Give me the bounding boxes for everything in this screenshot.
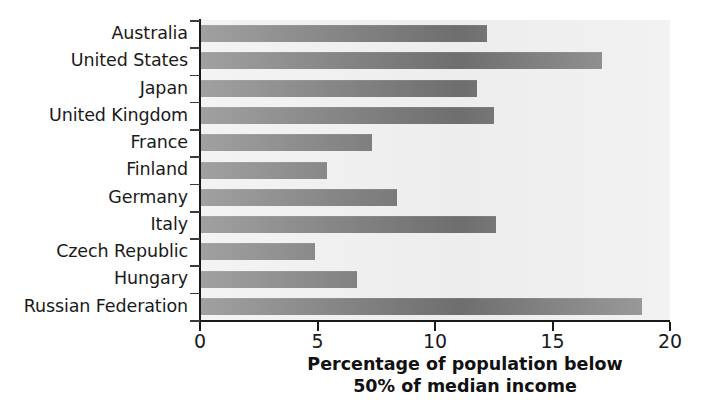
x-tick-label: 5	[311, 330, 323, 352]
x-tick-label: 15	[540, 330, 564, 352]
category-label: Finland	[126, 156, 188, 183]
bar	[200, 162, 327, 179]
category-tick	[190, 238, 200, 240]
x-axis-title-line2: 50% of median income	[232, 375, 698, 397]
bar	[200, 216, 496, 233]
category-tick	[190, 47, 200, 49]
y-axis-line	[199, 19, 201, 321]
bar	[200, 298, 642, 315]
category-tick	[190, 129, 200, 131]
bar	[200, 243, 315, 260]
bar	[200, 134, 372, 151]
category-tick	[190, 293, 200, 295]
category-tick	[190, 320, 200, 322]
category-label: Italy	[151, 211, 188, 238]
x-tick-label: 20	[658, 330, 682, 352]
category-label: Australia	[111, 20, 188, 47]
category-label: Hungary	[114, 265, 188, 292]
category-tick	[190, 211, 200, 213]
bar	[200, 189, 397, 206]
bar	[200, 80, 477, 97]
category-tick	[190, 184, 200, 186]
x-tick-label: 0	[194, 330, 206, 352]
category-label: Germany	[108, 184, 188, 211]
bar	[200, 107, 494, 124]
bar-chart: AustraliaUnited StatesJapanUnited Kingdo…	[0, 0, 706, 405]
plot-area	[200, 20, 670, 320]
category-label: Japan	[140, 75, 188, 102]
category-axis: AustraliaUnited StatesJapanUnited Kingdo…	[0, 20, 196, 320]
bar	[200, 25, 487, 42]
category-tick	[190, 265, 200, 267]
category-label: United Kingdom	[49, 102, 188, 129]
x-axis-title: Percentage of population below 50% of me…	[232, 353, 698, 397]
category-tick	[190, 75, 200, 77]
bar	[200, 271, 357, 288]
category-label: France	[130, 129, 188, 156]
category-label: Russian Federation	[24, 293, 188, 320]
x-axis-title-line1: Percentage of population below	[307, 354, 622, 374]
category-tick	[190, 20, 200, 22]
bar	[200, 52, 602, 69]
category-label: United States	[71, 47, 188, 74]
category-tick	[190, 102, 200, 104]
category-tick	[190, 156, 200, 158]
category-label: Czech Republic	[56, 238, 188, 265]
x-tick-label: 10	[423, 330, 447, 352]
